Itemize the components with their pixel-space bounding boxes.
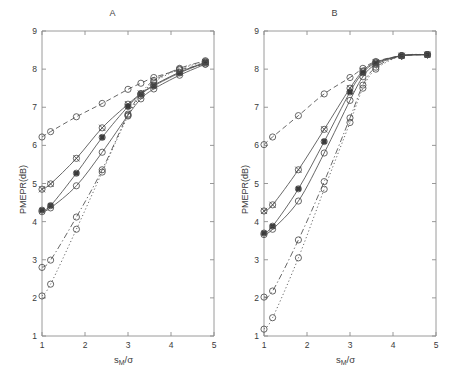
series-series-3-solid bbox=[261, 52, 431, 237]
series-series-5-dashdot bbox=[39, 58, 209, 271]
svg-text:4: 4 bbox=[32, 217, 37, 227]
svg-text:8: 8 bbox=[254, 64, 259, 74]
svg-text:9: 9 bbox=[32, 26, 37, 36]
svg-text:1: 1 bbox=[262, 340, 267, 350]
svg-text:5: 5 bbox=[32, 179, 37, 189]
svg-text:3: 3 bbox=[126, 340, 131, 350]
panel-b: B 12345123456789 PMEPR(dB) sM/σ bbox=[222, 0, 447, 383]
svg-text:3: 3 bbox=[32, 255, 37, 265]
series-series-3-solid bbox=[39, 60, 209, 214]
series-series-4-solid-lower bbox=[39, 61, 209, 215]
svg-text:5: 5 bbox=[434, 340, 439, 350]
svg-text:2: 2 bbox=[32, 293, 37, 303]
svg-text:4: 4 bbox=[391, 340, 396, 350]
series-series-5-dashdot bbox=[261, 52, 431, 301]
panel-a: A 12345123456789 PMEPR(dB) sM/σ bbox=[0, 0, 225, 383]
svg-text:3: 3 bbox=[348, 340, 353, 350]
svg-text:3: 3 bbox=[254, 255, 259, 265]
svg-text:2: 2 bbox=[254, 293, 259, 303]
svg-text:7: 7 bbox=[32, 102, 37, 112]
svg-text:1: 1 bbox=[40, 340, 45, 350]
panel-a-ylabel: PMEPR(dB) bbox=[18, 164, 28, 213]
svg-text:7: 7 bbox=[254, 102, 259, 112]
xlabel-tail: /σ bbox=[125, 354, 134, 365]
svg-text:4: 4 bbox=[169, 340, 174, 350]
svg-text:4: 4 bbox=[254, 217, 259, 227]
series-series-6-dotted bbox=[39, 58, 209, 299]
panel-b-ylabel: PMEPR(dB) bbox=[240, 164, 250, 213]
svg-text:9: 9 bbox=[254, 26, 259, 36]
svg-text:8: 8 bbox=[32, 64, 37, 74]
svg-text:1: 1 bbox=[32, 331, 37, 341]
svg-text:5: 5 bbox=[254, 179, 259, 189]
figure-container: A 12345123456789 PMEPR(dB) sM/σ B 123451… bbox=[0, 0, 451, 383]
series-series-4-solid-lower bbox=[261, 52, 431, 238]
panel-b-plot: 12345123456789 bbox=[222, 0, 447, 383]
series-series-6-dotted bbox=[261, 52, 431, 333]
panel-a-plot: 12345123456789 bbox=[0, 0, 225, 383]
svg-text:6: 6 bbox=[254, 140, 259, 150]
svg-text:6: 6 bbox=[32, 140, 37, 150]
svg-text:1: 1 bbox=[254, 331, 259, 341]
svg-text:5: 5 bbox=[212, 340, 217, 350]
xlabel-tail: /σ bbox=[347, 354, 356, 365]
svg-text:2: 2 bbox=[305, 340, 310, 350]
panel-b-xlabel: sM/σ bbox=[336, 354, 355, 366]
svg-text:2: 2 bbox=[83, 340, 88, 350]
panel-a-xlabel: sM/σ bbox=[114, 354, 133, 366]
series-series-2-solid-marker-filled bbox=[39, 59, 209, 192]
